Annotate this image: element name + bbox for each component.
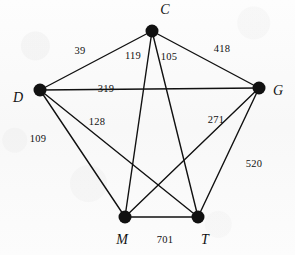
graph-edge-d-c <box>40 31 152 90</box>
edge-weight-m-t: 701 <box>157 234 173 245</box>
graph-edge-d-g <box>40 88 259 90</box>
graph-vertex-c <box>146 25 159 38</box>
edge-weight-d-c: 39 <box>75 45 86 56</box>
graph-edge-d-m <box>40 90 125 217</box>
edge-weight-c-t: 105 <box>161 51 177 62</box>
vertex-label-g: G <box>273 83 283 99</box>
edge-weight-d-t: 128 <box>89 116 105 127</box>
edge-weight-d-m: 109 <box>30 133 46 144</box>
vertex-label-d: D <box>13 90 23 106</box>
graph-vertex-m <box>119 211 132 224</box>
edge-weight-g-t: 520 <box>246 158 262 169</box>
vertex-label-c: C <box>160 2 169 18</box>
vertex-label-m: M <box>116 232 128 248</box>
graph-edge-d-t <box>40 90 198 217</box>
edge-weight-d-g: 319 <box>98 83 114 94</box>
graph-figure: 39119105418319128109271520701 CDGMT <box>0 0 295 255</box>
graph-vertex-d <box>34 84 47 97</box>
edge-weight-c-m: 119 <box>125 50 141 61</box>
graph-edge-g-m <box>125 88 259 217</box>
graph-canvas <box>0 0 295 255</box>
graph-edge-g-t <box>198 88 259 217</box>
edge-weight-c-g: 418 <box>214 43 230 54</box>
edge-layer <box>40 31 259 217</box>
vertex-label-t: T <box>201 232 209 248</box>
graph-vertex-t <box>192 211 205 224</box>
edge-weight-g-m: 271 <box>208 114 224 125</box>
graph-vertex-g <box>253 82 266 95</box>
